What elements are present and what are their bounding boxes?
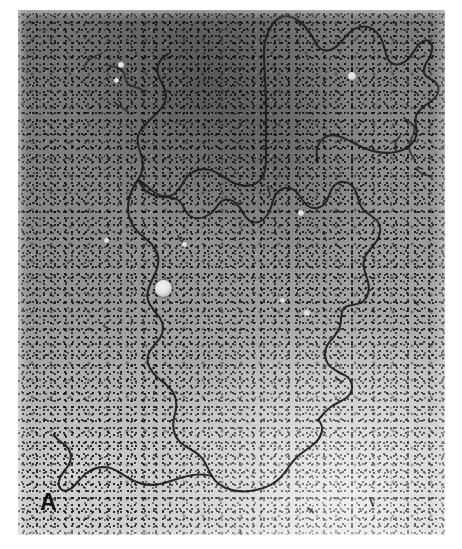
bright-speck: [118, 62, 124, 68]
electron-micrograph-image: [18, 10, 445, 535]
dna-lower-loop-upper: [138, 180, 380, 420]
dna-fragment-upper-left: [84, 54, 142, 112]
bright-speck: [348, 72, 356, 80]
bright-particle-bead: [155, 280, 172, 297]
dna-fragment-right-edge: [395, 118, 432, 176]
dna-central-zigzag: [137, 54, 168, 180]
bright-speck: [280, 298, 285, 303]
bright-speck: [104, 238, 109, 243]
dna-main-strand: [274, 16, 439, 162]
dna-filament-overlay: [18, 10, 445, 535]
bright-speck: [114, 78, 119, 83]
micrograph-figure: A: [0, 0, 462, 549]
dna-left-descending-strand: [128, 180, 322, 492]
bright-speck: [298, 210, 304, 216]
bright-speck: [304, 310, 310, 316]
dna-bottom-left-tail: [54, 434, 212, 491]
bright-speck: [182, 242, 187, 247]
panel-label-a: A: [40, 491, 57, 514]
dna-upper-vertical-branch: [138, 22, 274, 196]
dna-debris-specks: [104, 186, 418, 535]
